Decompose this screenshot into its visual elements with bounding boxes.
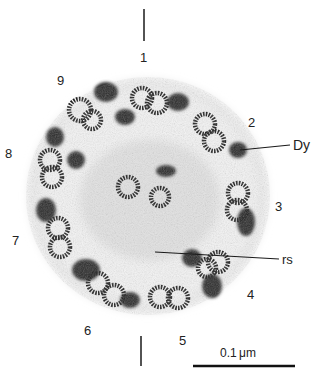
radial-spoke-label: rs — [282, 253, 293, 266]
doublet-label-1: 1 — [140, 51, 147, 64]
doublet-label-9: 9 — [57, 74, 64, 87]
axoneme-micrograph — [0, 0, 320, 376]
doublet-label-3: 3 — [275, 200, 282, 213]
scale-bar-label: 0.1 μm — [220, 347, 256, 360]
doublet-label-2: 2 — [248, 116, 255, 129]
doublet-label-5: 5 — [179, 334, 186, 347]
doublet-label-6: 6 — [84, 324, 91, 337]
doublet-label-4: 4 — [247, 288, 254, 301]
doublet-label-8: 8 — [5, 147, 12, 160]
dynein-label: Dy — [293, 139, 310, 152]
doublet-label-7: 7 — [12, 234, 19, 247]
micrograph-figure: 1 2 3 4 5 6 7 8 9 Dy rs 0.1 μm — [0, 0, 320, 376]
